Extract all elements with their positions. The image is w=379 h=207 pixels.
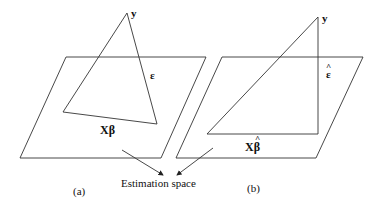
triangle-b (207, 17, 318, 134)
estimation-plane-b (176, 57, 363, 158)
estimation-plane-a (20, 57, 206, 158)
caption-a: (a) (73, 185, 86, 198)
label-y-b: y (322, 12, 328, 24)
beta-hat-accent: ^ (255, 134, 260, 144)
arrow-to-plane-b (177, 148, 213, 175)
caption-b: (b) (247, 182, 260, 195)
triangle-a (63, 13, 157, 124)
estimation-space-label: Estimation space (121, 177, 196, 189)
label-y-a: y (131, 7, 137, 19)
arrow-to-plane-a (122, 150, 163, 175)
label-epsilon-a: ε (150, 69, 155, 81)
label-xbeta-a: Xβ (100, 123, 115, 137)
epsilon-hat-accent: ^ (326, 62, 331, 72)
diagram-canvas: y ε Xβ (a) y ε ^ Xβ ^ (b) Estimation spa… (0, 0, 379, 207)
